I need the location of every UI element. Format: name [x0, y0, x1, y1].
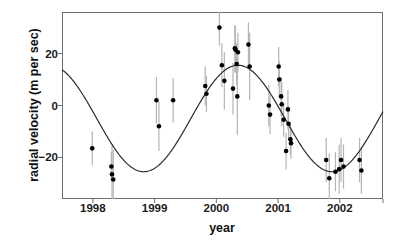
x-tick-label-2000: 2000 — [204, 202, 230, 214]
data-point — [339, 158, 344, 163]
data-point — [279, 102, 284, 107]
data-point — [154, 98, 159, 103]
errorbar-layer — [92, 12, 361, 199]
data-point — [109, 164, 114, 169]
x-axis-title: year — [209, 221, 235, 235]
data-point — [284, 149, 289, 154]
data-point — [279, 94, 284, 99]
data-point — [288, 137, 293, 142]
data-point — [204, 92, 209, 97]
data-point — [266, 103, 271, 108]
data-point — [341, 164, 346, 169]
x-tick-label-1999: 1999 — [142, 202, 168, 214]
data-point — [203, 84, 208, 89]
data-point — [171, 98, 176, 103]
data-point — [327, 176, 332, 181]
data-point — [337, 167, 342, 172]
data-point — [276, 64, 281, 69]
data-point — [277, 77, 282, 82]
data-point — [357, 158, 362, 163]
data-point — [234, 62, 239, 67]
y-tick-label-0: 0 — [52, 100, 58, 112]
data-point — [220, 63, 225, 68]
axis-ticks — [58, 54, 383, 203]
data-point — [110, 172, 115, 177]
data-point — [286, 121, 291, 126]
data-point — [111, 177, 116, 182]
data-point — [231, 86, 236, 91]
data-point — [359, 168, 364, 173]
data-point — [157, 124, 162, 129]
data-point — [286, 107, 291, 112]
x-tick-label-1998: 1998 — [80, 202, 106, 214]
data-point — [281, 117, 286, 122]
radial-velocity-figure: 19981999200020012002 200−20 year radial … — [0, 0, 403, 244]
data-point — [333, 169, 338, 174]
x-tick-label-2001: 2001 — [265, 202, 291, 214]
data-points-layer — [90, 25, 364, 182]
x-tick-label-2002: 2002 — [327, 202, 353, 214]
data-point — [246, 42, 251, 47]
data-point — [222, 79, 227, 84]
data-point — [217, 25, 222, 30]
y-axis-title: radial velocity (m per sec) — [27, 5, 41, 205]
data-point — [324, 158, 329, 163]
y-tick-label-20: 20 — [45, 48, 58, 60]
data-point — [247, 64, 252, 69]
data-point — [268, 112, 273, 117]
data-point — [90, 146, 95, 151]
y-tick-label-neg20: −20 — [38, 151, 58, 163]
data-point — [289, 141, 294, 146]
data-point — [235, 94, 240, 99]
data-point — [236, 50, 241, 55]
